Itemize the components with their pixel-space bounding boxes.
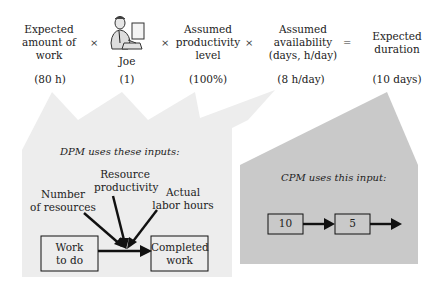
cpm-title: CPM uses this input: xyxy=(281,172,386,183)
cpm-node-1-value: 10 xyxy=(268,217,303,230)
term-label: Assumed availability (days, h/day) xyxy=(269,23,337,61)
work-to-do-text: Work to do xyxy=(41,241,98,267)
completed-work-text: Completed work xyxy=(151,241,208,267)
input-label: Resource productivity xyxy=(94,168,158,193)
input-label: Number of resources xyxy=(30,188,96,213)
term-expected-work-label: Expected amount of work xyxy=(18,23,80,62)
multiply-operator: × xyxy=(245,37,253,48)
term-duration-label: Expected duration xyxy=(366,30,428,56)
value-productivity: (100%) xyxy=(185,73,231,85)
value-availability: (8 h/day) xyxy=(268,73,334,85)
multiply-operator: × xyxy=(161,37,169,48)
person-at-computer-icon xyxy=(106,13,148,55)
dpm-input-actual-labor-hours: Actual labor hours xyxy=(150,186,216,212)
value-duration: (10 days) xyxy=(363,73,431,85)
multiply-operator: × xyxy=(90,37,98,48)
term-availability-label: Assumed availability (days, h/day) xyxy=(262,23,344,62)
box-label: Completed work xyxy=(151,241,209,266)
input-label: Actual labor hours xyxy=(152,186,213,211)
equals-operator: = xyxy=(343,37,351,48)
box-label: Work to do xyxy=(56,241,84,266)
dpm-title: DPM uses these inputs: xyxy=(60,146,180,157)
term-label: Assumed productivity level xyxy=(176,23,240,61)
term-label: Expected duration xyxy=(372,30,422,55)
term-joe-label: Joe xyxy=(113,55,141,68)
value-expected-work: (80 h) xyxy=(25,73,75,85)
cpm-node-2-value: 5 xyxy=(335,217,370,230)
term-productivity-label: Assumed productivity level xyxy=(172,23,244,62)
dpm-input-number-of-resources: Number of resources xyxy=(30,188,96,214)
value-resources: (1) xyxy=(113,73,141,85)
dpm-input-resource-productivity: Resource productivity xyxy=(94,168,156,194)
term-label: Expected amount of work xyxy=(22,23,76,61)
